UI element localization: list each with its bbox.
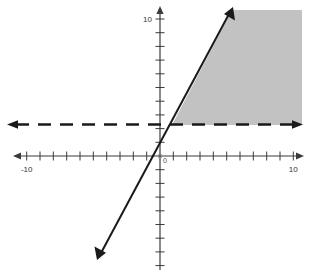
origin-label: 0 [163,157,167,164]
y-axis: 10 [143,6,164,270]
y-axis-top-arrowhead [156,6,163,14]
x-axis-min-tick-label: -10 [21,165,33,174]
graph-canvas: -10 10 [0,0,309,270]
x-axis-right-arrowhead [296,152,304,159]
y-axis-max-tick-label: 10 [143,15,152,24]
x-axis-max-tick-label: 10 [289,165,298,174]
coordinate-plane-graph: -10 10 [0,0,309,270]
dashed-line-left-arrowhead [7,120,18,129]
x-axis-left-arrowhead [13,152,21,159]
shaded-solution-region [172,10,302,125]
